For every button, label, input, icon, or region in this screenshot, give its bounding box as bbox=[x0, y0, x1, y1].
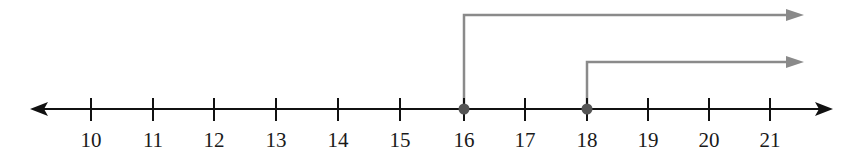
arrowhead-right-icon bbox=[786, 56, 804, 68]
tick-label: 15 bbox=[390, 128, 411, 152]
ray-from-16 bbox=[464, 9, 804, 109]
tick-label: 18 bbox=[577, 128, 598, 152]
tick-label: 12 bbox=[204, 128, 225, 152]
tick-label: 11 bbox=[143, 128, 163, 152]
tick-label: 19 bbox=[638, 128, 659, 152]
tick-label: 14 bbox=[328, 128, 350, 152]
number-line-axis bbox=[30, 102, 833, 116]
tick-label: 17 bbox=[515, 128, 536, 152]
number-line-diagram: 10 11 12 13 14 15 16 17 18 19 20 21 bbox=[0, 0, 860, 161]
tick-label: 21 bbox=[760, 128, 781, 152]
tick-label: 20 bbox=[699, 128, 720, 152]
tick-label: 16 bbox=[454, 128, 475, 152]
tick-labels: 10 11 12 13 14 15 16 17 18 19 20 21 bbox=[81, 128, 781, 152]
closed-point-18 bbox=[582, 104, 593, 115]
tick-label: 13 bbox=[266, 128, 287, 152]
ray-from-18 bbox=[587, 56, 804, 109]
closed-point-16 bbox=[459, 104, 470, 115]
tick-label: 10 bbox=[81, 128, 102, 152]
arrowhead-right-icon bbox=[786, 9, 804, 21]
